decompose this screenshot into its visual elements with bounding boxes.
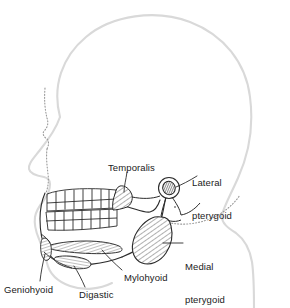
- label-medial-pterygoid-line1: Medial: [185, 261, 225, 272]
- label-lateral-pterygoid: Lateral pterygoid: [192, 155, 232, 243]
- label-temporalis: Temporalis: [108, 162, 155, 173]
- leader-geniohyoid: [40, 254, 45, 281]
- head-anatomy-svg: [0, 0, 290, 308]
- digastric-muscle: [54, 256, 91, 269]
- label-geniohyoid: Geniohyoid: [4, 284, 53, 295]
- anatomical-figure: Temporalis Lateral pterygoid Medial pter…: [0, 0, 290, 308]
- label-lateral-pterygoid-line1: Lateral: [192, 177, 232, 188]
- medial-pterygoid-muscle: [132, 217, 172, 264]
- lower-dental-arch: [46, 209, 117, 230]
- temporalis-muscle: [113, 186, 133, 210]
- label-medial-pterygoid: Medial pterygoid: [185, 239, 225, 308]
- upper-dental-arch: [47, 189, 116, 211]
- mylohyoid-muscle: [47, 241, 122, 254]
- lateral-pterygoid-muscle: [159, 178, 182, 217]
- label-mylohyoid: Mylohyoid: [124, 272, 168, 283]
- label-digastic: Digastic: [79, 289, 114, 300]
- label-lateral-pterygoid-line2: pterygoid: [192, 210, 232, 221]
- label-medial-pterygoid-line2: pterygoid: [185, 294, 225, 305]
